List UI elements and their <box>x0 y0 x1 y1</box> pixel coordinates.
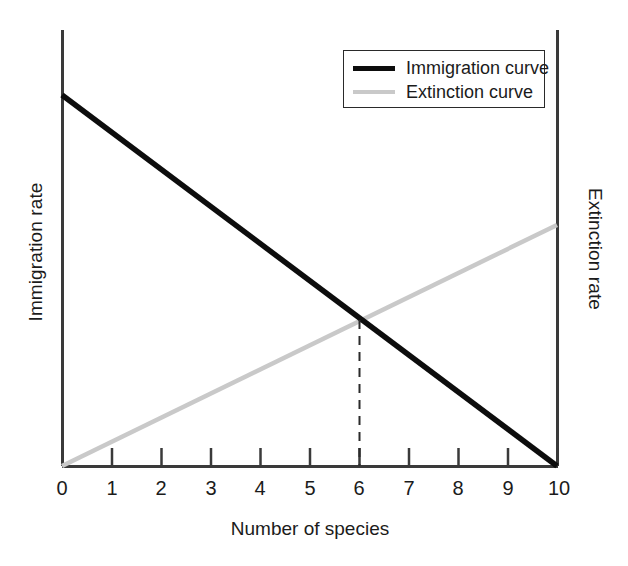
extinction-curve-line <box>62 225 557 466</box>
legend-line-icon-extinction <box>352 90 396 94</box>
x-tick-label-7: 7 <box>394 476 424 500</box>
x-tick-label-10: 10 <box>544 476 574 500</box>
x-tick-label-2: 2 <box>146 476 176 500</box>
x-axis-ticks <box>63 448 558 466</box>
x-axis-title: Number of species <box>62 518 558 540</box>
x-tick-label-6: 6 <box>344 476 374 500</box>
x-tick-label-5: 5 <box>295 476 325 500</box>
legend-item-extinction: Extinction curve <box>344 80 544 104</box>
x-tick-label-4: 4 <box>245 476 275 500</box>
legend-label-immigration: Immigration curve <box>406 58 549 79</box>
x-tick-label-0: 0 <box>47 476 77 500</box>
x-tick-label-9: 9 <box>493 476 523 500</box>
chart-legend: Immigration curve Extinction curve <box>343 50 545 108</box>
chart-figure: 0 1 2 3 4 5 6 7 8 9 10 Immigration rate … <box>0 0 628 566</box>
y-axis-left-title: Immigration rate <box>23 132 49 372</box>
immigration-curve-line <box>62 95 557 466</box>
y-axis-right-title: Extinction rate <box>582 134 608 364</box>
legend-item-immigration: Immigration curve <box>344 56 544 80</box>
x-tick-label-3: 3 <box>196 476 226 500</box>
x-tick-label-8: 8 <box>443 476 473 500</box>
legend-line-icon-immigration <box>352 66 396 71</box>
legend-label-extinction: Extinction curve <box>406 82 533 103</box>
x-tick-label-1: 1 <box>97 476 127 500</box>
